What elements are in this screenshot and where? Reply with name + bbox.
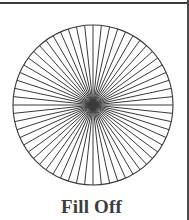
spoke-line [20,105,93,138]
figure-caption: Fill Off [0,196,183,218]
spoke-line [60,32,93,105]
spoke-line [93,105,126,178]
spoke-line [93,32,126,105]
figure-root: Fill Off [0,0,189,220]
spoke-line [93,105,166,138]
spoke-line [60,105,93,178]
top-border-rule [0,2,189,4]
radial-spoke-circle-diagram [0,6,189,198]
spoke-group [13,25,173,185]
spoke-line [20,72,93,105]
spoke-line [93,72,166,105]
